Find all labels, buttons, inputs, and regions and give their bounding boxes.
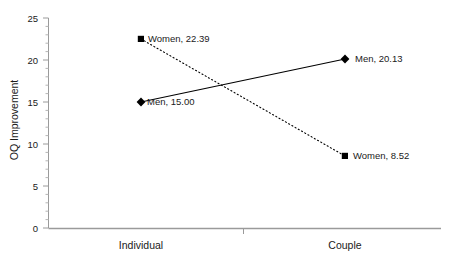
y-tick-label-25: 25 — [14, 14, 38, 24]
marker-women-couple — [342, 153, 348, 159]
y-tick-label-0: 0 — [14, 224, 38, 234]
oq-improvement-line-chart: 25 20 15 10 5 0 OQ Improvement Individua… — [0, 0, 457, 267]
point-label-women-couple: Women, 8.52 — [353, 151, 409, 161]
point-label-men-couple: Men, 20.13 — [355, 54, 403, 64]
x-category-label-couple: Couple — [305, 240, 385, 251]
x-category-label-individual: Individual — [101, 240, 181, 251]
y-axis-title: OQ Improvement — [8, 60, 20, 180]
chart-plot-area — [0, 0, 457, 267]
y-tick-label-5: 5 — [14, 182, 38, 192]
marker-men-couple — [341, 55, 350, 64]
y-axis-major-ticks — [43, 18, 49, 228]
marker-men-individual — [137, 98, 146, 107]
point-label-women-individual: Women, 22.39 — [148, 34, 210, 44]
marker-women-individual — [138, 36, 144, 42]
point-label-men-individual: Men, 15.00 — [147, 97, 195, 107]
